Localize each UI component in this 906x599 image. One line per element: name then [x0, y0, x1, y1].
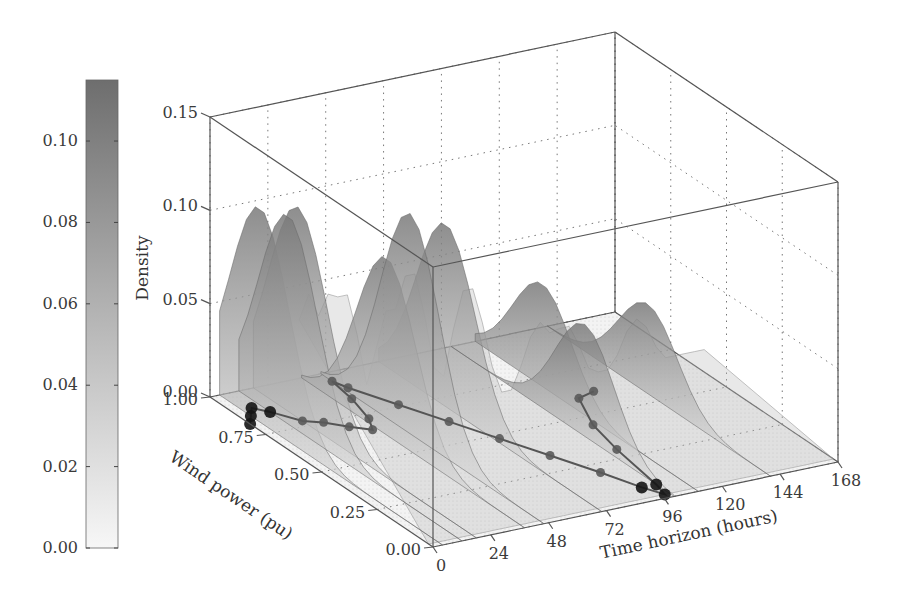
density-surface [220, 207, 834, 545]
trajectory-marker [596, 468, 605, 477]
y-tick [201, 397, 210, 398]
trajectory-marker [246, 402, 258, 414]
x-tick [722, 486, 726, 492]
x-tick [491, 535, 495, 541]
trajectory-marker [546, 451, 555, 460]
x-tick [433, 547, 437, 553]
y-tick [368, 510, 377, 511]
trajectory-marker [589, 420, 598, 429]
colorbar-tick-label: 0.04 [42, 375, 78, 394]
trajectory-marker [344, 383, 353, 392]
trajectory-marker [650, 478, 662, 490]
y-tick-label: 0.75 [218, 428, 254, 447]
y-tick-label: 0.25 [330, 503, 366, 522]
trajectory-marker [574, 394, 583, 403]
y-tick-label: 0.50 [274, 465, 310, 484]
trajectory-marker [636, 481, 648, 493]
colorbar-tick-label: 0.10 [42, 131, 78, 150]
x-tick [607, 511, 611, 517]
z-tick [201, 300, 210, 304]
z-tick-label: 0.05 [162, 290, 198, 309]
x-tick-label: 96 [662, 507, 682, 526]
colorbar-tick-label: 0.02 [42, 457, 78, 476]
x-tick [780, 474, 784, 480]
trajectory-marker [264, 406, 276, 418]
x-tick-label: 48 [547, 532, 567, 551]
trajectory-marker [319, 418, 328, 427]
x-tick [838, 462, 842, 468]
colorbar-tick-label: 0.00 [42, 538, 78, 557]
trajectory-marker [345, 422, 354, 431]
x-tick-label: 168 [831, 471, 862, 490]
y-tick [257, 435, 266, 436]
z-tick-label: 0.10 [162, 196, 198, 215]
y-axis-label: Wind power (pu) [166, 446, 297, 543]
x-axis-label: Time horizon (hours) [598, 506, 779, 563]
z-axis-label: Density [132, 235, 152, 301]
z-tick [201, 206, 210, 210]
box-edge [210, 32, 615, 117]
x-tick-label: 24 [489, 544, 509, 563]
box-edge [433, 182, 838, 267]
trajectory-marker [612, 445, 621, 454]
trajectory-marker [298, 416, 307, 425]
colorbar: 0.000.020.040.060.080.10 [42, 80, 118, 557]
trajectory-marker [445, 417, 454, 426]
z-tick [201, 393, 210, 397]
trajectory-marker [495, 434, 504, 443]
density-surface-chart: 0.000.020.040.060.080.10 024487296120144… [0, 0, 906, 599]
trajectory-marker [394, 400, 403, 409]
y-tick [313, 472, 322, 473]
colorbar-tick-label: 0.08 [42, 212, 78, 231]
trajectory-marker [347, 394, 356, 403]
grid-line [615, 125, 838, 275]
trajectory-marker [368, 425, 377, 434]
z-tick-label: 0.15 [162, 103, 198, 122]
colorbar-gradient [86, 80, 118, 548]
z-tick-label: 0.00 [162, 382, 198, 401]
colorbar-tick-label: 0.06 [42, 294, 78, 313]
y-tick [424, 547, 433, 548]
x-tick-label: 144 [773, 483, 804, 502]
trajectory-marker [589, 387, 598, 396]
x-tick [549, 523, 553, 529]
grid-line [210, 125, 615, 210]
trajectory-marker [328, 377, 337, 386]
y-tick-label: 0.00 [385, 540, 421, 559]
x-tick-label: 120 [715, 495, 746, 514]
x-tick-label: 0 [436, 556, 446, 575]
x-tick-label: 72 [604, 520, 624, 539]
z-tick [201, 113, 210, 117]
trajectory-marker [364, 414, 373, 423]
